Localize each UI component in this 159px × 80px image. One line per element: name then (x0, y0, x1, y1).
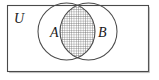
venn-diagram-figure: U A B (0, 0, 159, 80)
universe-label: U (14, 11, 25, 26)
venn-diagram-canvas: U A B (0, 0, 159, 80)
set-a-label: A (49, 25, 59, 40)
set-b-label: B (98, 25, 107, 40)
